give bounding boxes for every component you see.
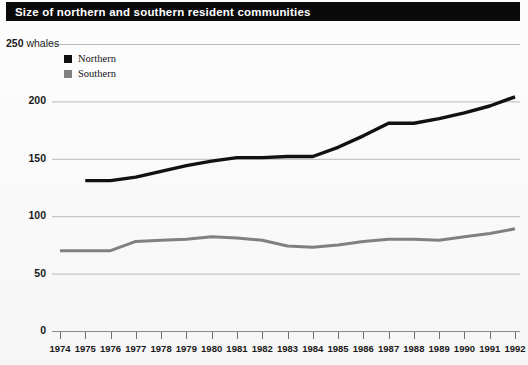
series-line-northern	[85, 97, 515, 181]
legend-swatch-icon	[64, 70, 72, 78]
series-line-southern	[60, 229, 515, 251]
y-axis-tick-label: 150	[2, 153, 46, 164]
y-axis-tick-label: 250 whales	[6, 38, 96, 49]
legend-item-label: Southern	[78, 68, 116, 79]
y-axis-max-value: 250	[6, 37, 24, 49]
y-axis-tick-label: 200	[2, 95, 46, 106]
y-axis-unit-label: whales	[24, 37, 60, 49]
y-axis-tick-label: 50	[2, 268, 46, 279]
legend-item-northern: Northern	[64, 52, 116, 65]
y-axis-tick-label: 100	[2, 210, 46, 221]
legend-item-label: Northern	[78, 53, 116, 64]
chart-legend: NorthernSouthern	[64, 52, 116, 82]
x-axis-tick-label: 1992	[498, 344, 528, 354]
legend-item-southern: Southern	[64, 67, 116, 80]
legend-swatch-icon	[64, 55, 72, 63]
y-axis-tick-label: 0	[2, 325, 46, 336]
chart-figure: Size of northern and southern resident c…	[0, 0, 528, 365]
